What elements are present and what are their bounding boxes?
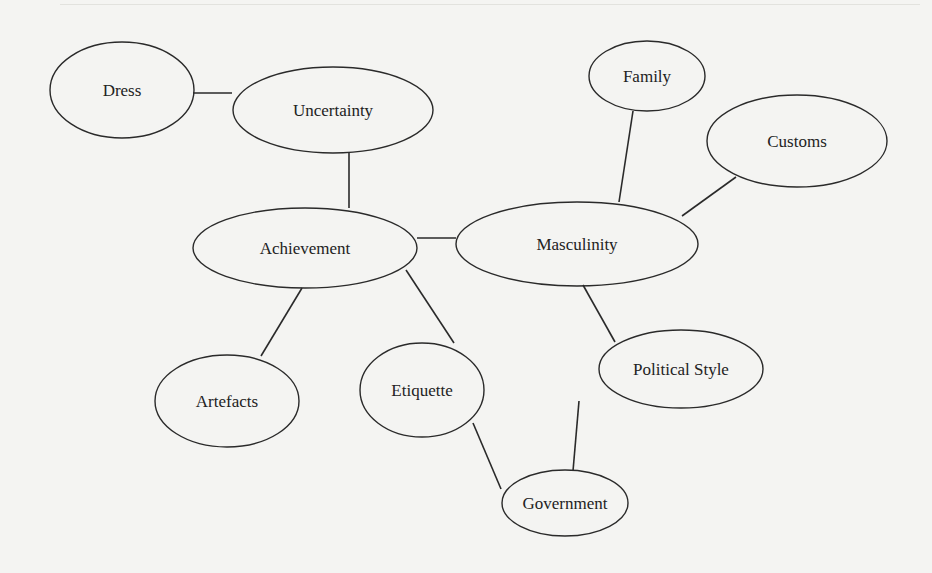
edge-customs-masculinity: [682, 177, 736, 216]
node-label: Dress: [103, 81, 142, 100]
edge-family-masculinity: [619, 111, 633, 202]
node-etiquette: Etiquette: [360, 343, 484, 437]
node-label: Customs: [767, 132, 827, 151]
node-label: Uncertainty: [293, 101, 374, 120]
node-achievement: Achievement: [193, 208, 417, 288]
node-label: Etiquette: [391, 381, 452, 400]
edges: [193, 93, 736, 489]
faint-text-bleed: [60, 4, 920, 5]
node-political_style: Political Style: [599, 330, 763, 408]
node-family: Family: [589, 41, 705, 111]
node-government: Government: [502, 470, 628, 536]
node-uncertainty: Uncertainty: [233, 67, 433, 153]
node-label: Achievement: [260, 239, 351, 258]
node-masculinity: Masculinity: [456, 202, 698, 286]
edge-political_style-government: [573, 401, 579, 471]
node-label: Political Style: [633, 360, 729, 379]
node-customs: Customs: [707, 95, 887, 187]
node-artefacts: Artefacts: [155, 355, 299, 447]
node-label: Government: [523, 494, 608, 513]
node-label: Masculinity: [536, 235, 618, 254]
node-label: Family: [623, 67, 672, 86]
edge-masculinity-political_style: [583, 285, 615, 342]
edge-achievement-artefacts: [261, 288, 302, 356]
node-dress: Dress: [50, 42, 194, 138]
diagram-svg: DressUncertaintyFamilyCustomsAchievement…: [0, 0, 932, 573]
concept-map-canvas: DressUncertaintyFamilyCustomsAchievement…: [0, 0, 932, 573]
edge-achievement-etiquette: [406, 270, 454, 343]
nodes: DressUncertaintyFamilyCustomsAchievement…: [50, 41, 887, 536]
node-label: Artefacts: [196, 392, 258, 411]
edge-etiquette-government: [473, 423, 501, 489]
